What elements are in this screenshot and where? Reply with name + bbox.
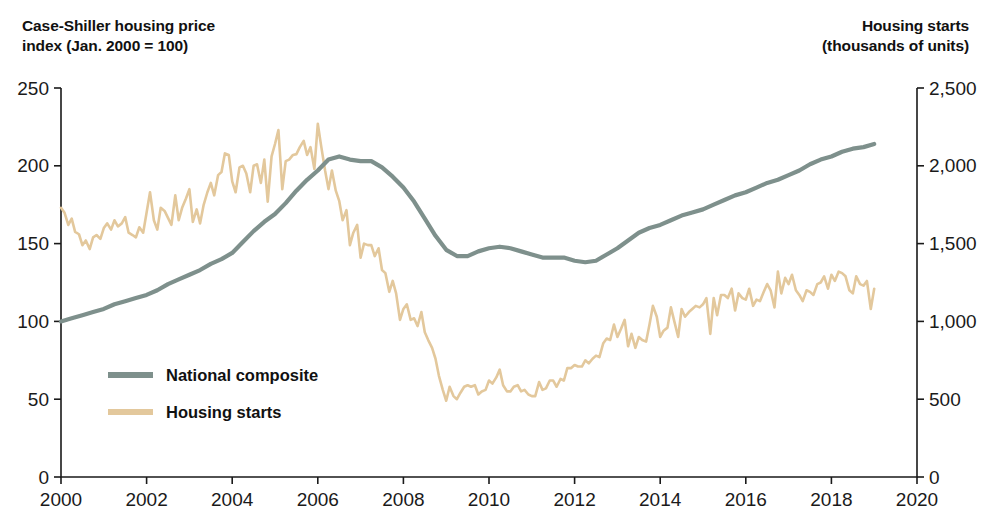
x-axis-tick-label: 2020 (896, 489, 938, 510)
left-axis-tick-label: 150 (17, 233, 49, 254)
x-axis-tick-label: 2008 (382, 489, 424, 510)
right-axis-tick-label: 1,500 (929, 233, 977, 254)
left-axis-tick-label: 50 (28, 389, 49, 410)
left-axis-tick-label: 0 (38, 467, 49, 488)
right-axis-tick-label: 1,000 (929, 311, 977, 332)
x-axis-tick-label: 2006 (297, 489, 339, 510)
series-line-housing-starts (61, 124, 874, 401)
x-axis-tick-label: 2004 (211, 489, 254, 510)
left-axis-tick-group: 050100150200250 (17, 78, 61, 488)
legend-label: Housing starts (166, 403, 282, 421)
x-axis-tick-group: 2000200220042006200820102012201420162018… (40, 477, 938, 510)
right-axis-tick-group: 05001,0001,5002,0002,500 (917, 78, 977, 488)
x-axis-tick-label: 2014 (639, 489, 682, 510)
right-axis-tick-label: 0 (929, 467, 940, 488)
left-axis-tick-label: 100 (17, 311, 49, 332)
left-axis-tick-label: 250 (17, 78, 49, 99)
x-axis-tick-label: 2000 (40, 489, 82, 510)
right-axis-tick-label: 2,000 (929, 155, 977, 176)
series-group (61, 124, 874, 401)
series-line-national-composite (61, 144, 874, 321)
right-axis-tick-label: 2,500 (929, 78, 977, 99)
legend-label: National composite (166, 366, 318, 384)
x-axis-tick-label: 2002 (125, 489, 167, 510)
left-axis-tick-label: 200 (17, 155, 49, 176)
chart-figure: Case-Shiller housing price index (Jan. 2… (0, 0, 989, 524)
x-axis-tick-label: 2012 (553, 489, 595, 510)
x-axis-tick-label: 2010 (468, 489, 510, 510)
right-axis-tick-label: 500 (929, 389, 961, 410)
chart-legend: National compositeHousing starts (108, 366, 318, 421)
plot-canvas: 050100150200250 05001,0001,5002,0002,500… (0, 0, 989, 524)
x-axis-tick-label: 2018 (810, 489, 852, 510)
x-axis-tick-label: 2016 (725, 489, 767, 510)
